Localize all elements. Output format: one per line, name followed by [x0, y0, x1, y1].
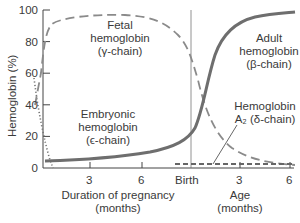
x-axis-label-pregnancy: Duration of pregnancy (months): [58, 189, 178, 215]
embryonic-label-line1: Embryonic: [76, 108, 140, 121]
fetal-hemoglobin-label: Fetal hemoglobin (γ-chain): [90, 19, 150, 58]
x-axis-label-age-line1: Age: [215, 189, 265, 202]
y-axis-label: Hemoglobin (%): [6, 57, 18, 137]
embryonic-hemoglobin-label: Embryonic hemoglobin (ϵ-chain): [76, 108, 140, 147]
y-tick-0: 0: [16, 162, 38, 174]
x-axis-label-pregnancy-line2: (months): [58, 202, 178, 215]
fetal-label-line3: (γ-chain): [90, 45, 150, 58]
x-axis-label-age-line2: (months): [215, 202, 265, 215]
embryonic-label-line2: hemoglobin: [76, 121, 140, 134]
adult-label-line3: (β-chain): [238, 58, 300, 71]
y-tick-20: 20: [16, 130, 38, 142]
x-axis-label-pregnancy-line1: Duration of pregnancy: [58, 189, 178, 202]
adult-label-line1: Adult: [238, 32, 300, 45]
x-axis-label-age: Age (months): [215, 189, 265, 215]
a2-label-line1: Hemoglobin: [230, 100, 300, 113]
a2-hemoglobin-label: Hemoglobin A₂ (δ-chain): [230, 100, 300, 126]
adult-label-line2: hemoglobin: [238, 45, 300, 58]
x-tick-3-age: 3: [236, 174, 242, 186]
a2-leader-line: [213, 125, 237, 164]
a2-label-line2: A₂ (δ-chain): [230, 113, 300, 126]
fetal-label-line1: Fetal: [90, 19, 150, 32]
y-tick-60: 60: [16, 67, 38, 79]
embryonic-label-line3: (ϵ-chain): [76, 134, 140, 147]
x-tick-3-preg: 3: [86, 174, 92, 186]
y-tick-100: 100: [16, 4, 38, 16]
y-tick-40: 40: [16, 99, 38, 111]
fetal-label-line2: hemoglobin: [90, 32, 150, 45]
y-tick-80: 80: [16, 36, 38, 48]
x-tick-6-age: 6: [286, 174, 292, 186]
x-tick-birth: Birth: [175, 174, 199, 186]
adult-hemoglobin-label: Adult hemoglobin (β-chain): [238, 32, 300, 71]
x-tick-6-preg: 6: [138, 174, 144, 186]
